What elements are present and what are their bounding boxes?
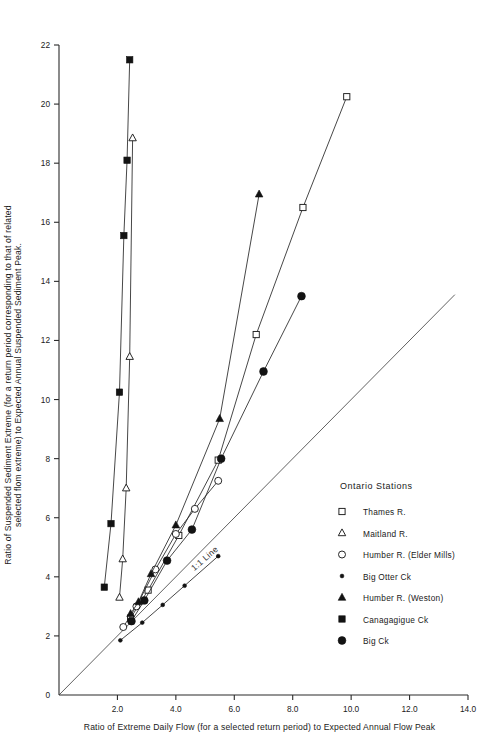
data-point xyxy=(188,526,196,534)
y-axis-tick-label: 18 xyxy=(41,158,51,168)
data-point xyxy=(216,554,220,558)
data-point xyxy=(253,331,259,337)
data-point xyxy=(140,621,144,625)
data-point xyxy=(101,584,107,590)
legend-item-hitbox[interactable] xyxy=(334,504,484,524)
y-axis-tick-label: 12 xyxy=(41,335,51,345)
data-point xyxy=(140,597,148,605)
legend-item-label: Thames R. xyxy=(363,507,406,517)
legend-item-humber-r-elder-mills[interactable]: Humber R. (Elder Mills) xyxy=(334,547,484,567)
legend-marker-large-filled-circle xyxy=(338,637,346,645)
legend-item-label: Big Ck xyxy=(363,636,390,646)
y-axis-tick-label: 22 xyxy=(41,40,51,50)
legend-item-hitbox[interactable] xyxy=(334,633,484,653)
y-axis-tick-label: 6 xyxy=(45,513,50,523)
data-point xyxy=(300,204,306,210)
x-axis-tick-label: 2.0 xyxy=(112,704,124,714)
y-axis-title-line-2: selected flom extreme) to Expected Annua… xyxy=(13,243,23,527)
legend-item-thames-r[interactable]: Thames R. xyxy=(334,504,484,524)
data-point xyxy=(121,232,127,238)
data-point xyxy=(163,557,171,565)
data-point xyxy=(128,617,136,625)
legend-title: Ontario Stations xyxy=(340,481,413,491)
data-point xyxy=(217,455,225,463)
data-point xyxy=(161,603,165,607)
y-axis-tick-label: 10 xyxy=(41,395,51,405)
legend-item-canagagigue-ck[interactable]: Canagagigue Ck xyxy=(334,612,484,632)
legend-item-label: Canagagigue Ck xyxy=(363,615,429,625)
legend-item-label: Maitland R. xyxy=(363,529,408,539)
data-point xyxy=(124,157,130,163)
y-axis-tick-label: 4 xyxy=(45,572,50,582)
data-point xyxy=(120,624,127,631)
y-axis-tick-label: 16 xyxy=(41,217,51,227)
data-point xyxy=(260,368,268,376)
x-axis-title: Ratio of Extreme Daily Flow (for a selec… xyxy=(84,722,436,732)
chart-figure: 02468101214161820222.04.06.08.010.012.01… xyxy=(0,0,485,741)
data-point xyxy=(344,94,350,100)
x-axis-tick-label: 12.0 xyxy=(401,704,418,714)
x-axis-tick-label: 14.0 xyxy=(460,704,477,714)
legend-item-hitbox[interactable] xyxy=(334,526,484,546)
data-point xyxy=(298,292,306,300)
legend-marker-open-circle xyxy=(339,551,346,558)
x-axis-tick-label: 10.0 xyxy=(343,704,360,714)
legend-marker-filled-square xyxy=(339,616,345,622)
y-axis-title-line-1: Ratio of Suspended Sediment Extreme (for… xyxy=(3,205,13,565)
y-axis-tick-label: 8 xyxy=(45,454,50,464)
legend-item-label: Big Otter Ck xyxy=(363,572,412,582)
x-axis-tick-label: 4.0 xyxy=(170,704,182,714)
legend-marker-small-filled-circle xyxy=(340,574,344,578)
data-point xyxy=(118,638,122,642)
legend-item-humber-r-weston[interactable]: Humber R. (Weston) xyxy=(334,590,484,610)
x-axis-tick-label: 6.0 xyxy=(229,704,241,714)
legend-item-big-otter-ck[interactable]: Big Otter Ck xyxy=(334,569,484,589)
data-point xyxy=(215,477,222,484)
data-point xyxy=(172,530,179,537)
legend-item-label: Humber R. (Weston) xyxy=(363,593,443,603)
data-point xyxy=(116,389,122,395)
y-axis-tick-label: 2 xyxy=(45,631,50,641)
legend-item-maitland-r[interactable]: Maitland R. xyxy=(334,526,484,546)
data-point xyxy=(108,520,114,526)
y-axis-tick-label: 14 xyxy=(41,276,51,286)
data-point xyxy=(183,584,187,588)
data-point xyxy=(126,57,132,63)
data-point xyxy=(191,505,198,512)
y-axis-tick-label: 20 xyxy=(41,99,51,109)
y-axis-tick-label: 0 xyxy=(45,690,50,700)
legend-item-label: Humber R. (Elder Mills) xyxy=(363,550,455,560)
x-axis-tick-label: 8.0 xyxy=(287,704,299,714)
legend-item-big-ck[interactable]: Big Ck xyxy=(334,633,484,653)
legend-marker-open-square xyxy=(339,508,345,514)
